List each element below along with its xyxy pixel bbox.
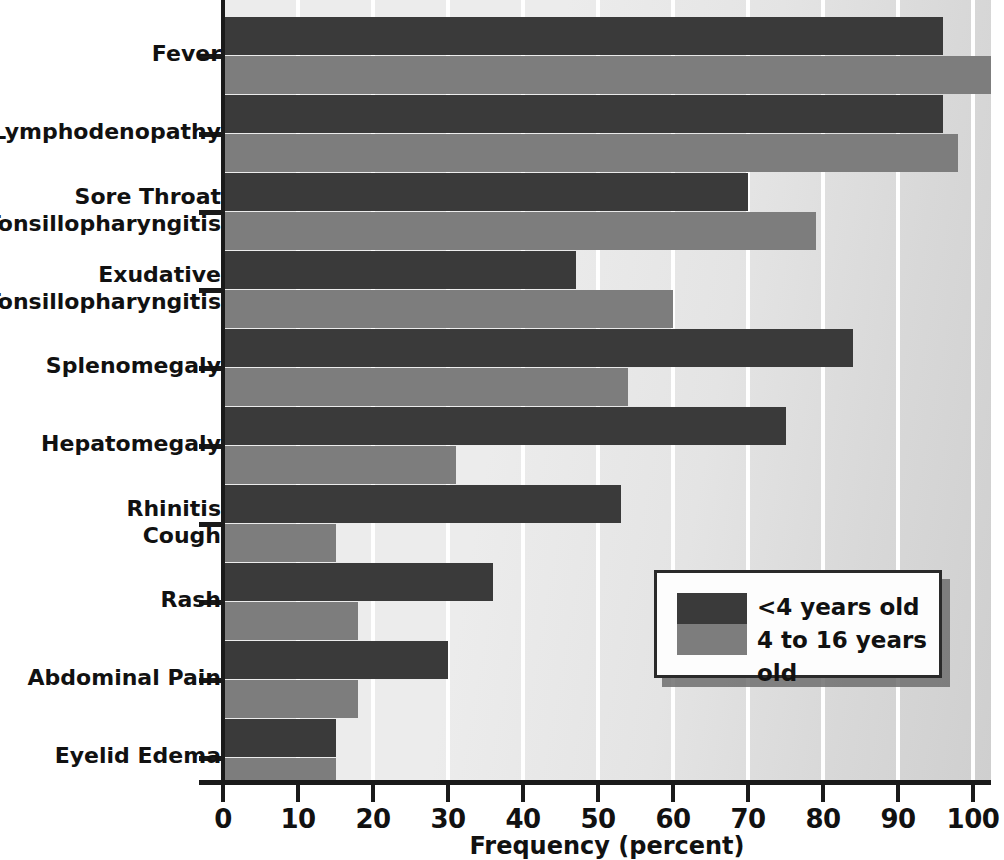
gridline-100 [971,0,975,780]
x-tick-label-30: 30 [413,804,483,834]
y-axis-label-lymphodenopathy: Lymphodenopathy [0,118,221,145]
x-axis-title: Frequency (percent) [223,832,991,860]
bar [223,524,336,562]
y-axis-label-line: Tonsillopharyngitis [0,288,221,315]
y-axis-label-line: Rash [160,586,221,613]
y-axis-label-rash: Rash [160,586,221,613]
bar [223,563,493,601]
bar [223,56,991,94]
x-tick-label-90: 90 [863,804,933,834]
y-axis-label-line: Sore Throat [0,183,221,210]
legend-swatch-under-4 [677,593,747,624]
bar [223,134,958,172]
bar [223,719,336,757]
y-axis-label-line: Rhinitis [127,495,222,522]
x-tick-90 [896,785,900,802]
bar [223,329,853,367]
bar [223,602,358,640]
legend-label-under-4: <4 years old [757,591,939,624]
x-tick-100 [971,785,975,802]
bar [223,251,576,289]
x-tick-label-100: 100 [938,804,1004,834]
x-tick-label-80: 80 [788,804,858,834]
legend-swatch-4-to-16 [677,624,747,655]
y-axis-label-line: Hepatomegaly [41,430,221,457]
x-axis-line [199,780,991,785]
bar [223,368,628,406]
y-axis-label-abdominal-pain: Abdominal Pain [28,664,221,691]
x-tick-60 [671,785,675,802]
bar [223,17,943,55]
legend-labels: <4 years old 4 to 16 years old [757,591,939,690]
x-tick-label-10: 10 [263,804,333,834]
y-axis-label-line: Splenomegaly [46,352,221,379]
y-axis-label-exudative-tonsillopharyngitis: ExudativeTonsillopharyngitis [0,261,221,315]
x-tick-80 [821,785,825,802]
y-axis-line [221,0,225,784]
x-tick-10 [296,785,300,802]
x-tick-label-40: 40 [488,804,558,834]
bar [223,290,673,328]
x-tick-label-0: 0 [188,804,258,834]
bar [223,680,358,718]
x-tick-label-50: 50 [563,804,633,834]
y-axis-label-hepatomegaly: Hepatomegaly [41,430,221,457]
x-tick-label-20: 20 [338,804,408,834]
bar [223,212,816,250]
y-axis-label-sore-throat-tonsillopharyngitis: Sore ThroatTonsillopharyngitis [0,183,221,237]
y-axis-label-line: Exudative [0,261,221,288]
bar [223,407,786,445]
y-axis-label-line: Cough [127,522,222,549]
legend-box: <4 years old 4 to 16 years old [654,570,942,678]
y-axis-label-line: Abdominal Pain [28,664,221,691]
y-axis-label-line: Tonsillopharyngitis [0,210,221,237]
y-axis-label-line: Lymphodenopathy [0,118,221,145]
bar [223,641,448,679]
x-tick-70 [746,785,750,802]
x-tick-0 [221,785,225,802]
y-axis-label-line: Fever [152,40,221,67]
bar [223,173,748,211]
bar [223,95,943,133]
x-tick-50 [596,785,600,802]
y-axis-label-eyelid-edema: Eyelid Edema [55,742,221,769]
x-tick-label-70: 70 [713,804,783,834]
y-axis-label-splenomegaly: Splenomegaly [46,352,221,379]
legend-swatches [677,593,747,655]
y-axis-label-rhinitis-cough: RhinitisCough [127,495,222,549]
x-tick-20 [371,785,375,802]
x-tick-40 [521,785,525,802]
legend-label-4-to-16: 4 to 16 years old [757,624,939,690]
bar [223,758,336,780]
bar [223,485,621,523]
y-axis-label-fever: Fever [152,40,221,67]
x-tick-label-60: 60 [638,804,708,834]
bar [223,446,456,484]
y-axis-label-line: Eyelid Edema [55,742,221,769]
x-tick-30 [446,785,450,802]
